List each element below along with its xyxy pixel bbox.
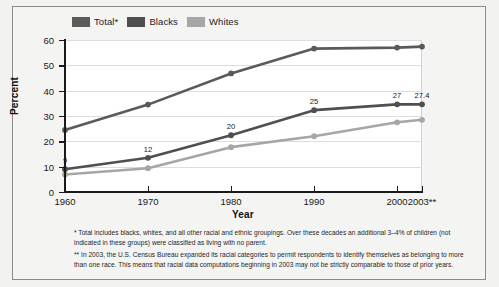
y-tick-label: 40 [28,85,54,96]
legend-label-blacks: Blacks [149,16,178,27]
x-tick-label: 1990 [303,196,324,207]
legend-item-blacks[interactable]: Blacks [127,16,178,27]
data-point[interactable] [311,46,317,52]
legend-item-total[interactable]: Total* [72,16,118,27]
y-tick-label: 10 [28,161,54,172]
x-tick [397,186,398,192]
y-tick [59,116,65,117]
y-axis-title: Percent [9,77,20,115]
chart-legend: Total* Blacks Whites [72,16,239,27]
data-point[interactable] [394,101,400,107]
x-tick [231,186,232,192]
legend-swatch-whites [187,17,205,27]
data-point[interactable] [394,45,400,51]
y-tick-label: 0 [28,187,54,198]
y-tick-label: 30 [28,111,54,122]
data-point[interactable] [419,117,425,123]
y-tick [59,65,65,66]
footnote-1: * Total includes blacks, whites, and all… [74,228,466,248]
footnotes: * Total includes blacks, whites, and all… [74,228,466,271]
data-point[interactable] [394,119,400,125]
y-tick-label: 50 [28,60,54,71]
y-tick-label: 60 [28,35,54,46]
data-point[interactable] [228,132,234,138]
chart-figure: Total* Blacks Whites Percent 01020304050… [0,0,499,287]
series-line-total [65,47,422,130]
point-value-label: 12 [144,145,152,154]
x-tick-label: 2003** [408,196,437,207]
data-point[interactable] [311,107,317,113]
data-point[interactable] [311,133,317,139]
x-axis [64,191,423,193]
x-tick-label: 1970 [137,196,158,207]
legend-label-total: Total* [94,16,118,27]
x-tick-label: 2000 [387,196,408,207]
footnote-2: ** In 2003, the U.S. Census Bureau expan… [74,250,466,270]
data-point[interactable] [145,165,151,171]
legend-label-whites: Whites [209,16,239,27]
legend-swatch-blacks [127,17,145,27]
x-axis-title: Year [232,209,254,220]
point-value-label: 20 [227,122,235,131]
point-value-label: 27 [393,91,401,100]
y-tick [59,141,65,142]
x-tick [148,186,149,192]
x-tick-label: 1960 [54,196,75,207]
x-tick [422,186,423,192]
point-value-label: 9 [63,156,67,165]
y-tick [59,167,65,168]
x-tick [65,186,66,192]
data-point[interactable] [228,144,234,150]
x-tick-label: 1980 [220,196,241,207]
x-tick [314,186,315,192]
series-lines [65,40,422,192]
y-tick [59,40,65,41]
data-point[interactable] [419,44,425,50]
series-line-whites [65,120,422,175]
point-value-label: 25 [310,97,318,106]
legend-item-whites[interactable]: Whites [187,16,239,27]
data-point[interactable] [228,71,234,77]
y-tick [59,91,65,92]
y-tick-label: 20 [28,136,54,147]
plot-area [65,40,422,192]
data-point[interactable] [419,101,425,107]
legend-swatch-total [72,17,90,27]
point-value-label: 27.4 [415,91,430,100]
data-point[interactable] [145,155,151,161]
data-point[interactable] [145,102,151,108]
y-tick [59,192,65,193]
